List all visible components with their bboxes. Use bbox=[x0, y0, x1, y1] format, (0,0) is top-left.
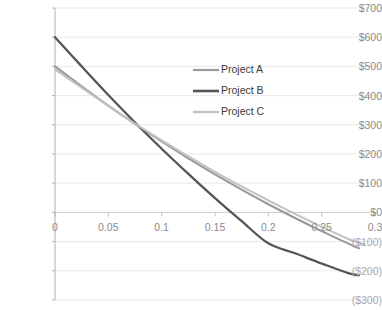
x-tick-label: 0.15 bbox=[205, 222, 225, 232]
chart-canvas bbox=[0, 0, 382, 310]
legend-label-project-c: Project C bbox=[221, 106, 264, 117]
legend-swatches bbox=[193, 70, 219, 112]
npv-profile-chart: $700$600$500$400$300$200$100$0($100)($20… bbox=[0, 0, 382, 310]
legend-label-project-b: Project B bbox=[221, 85, 264, 96]
y-tick-label: $500 bbox=[335, 61, 382, 71]
data-series bbox=[55, 37, 364, 275]
y-tick-label: $400 bbox=[335, 91, 382, 101]
y-tick-label: $600 bbox=[335, 32, 382, 42]
y-tick-label: $0 bbox=[335, 207, 382, 217]
y-tick-label: $300 bbox=[335, 120, 382, 130]
x-axis-ticks bbox=[55, 212, 375, 216]
y-tick-label: $200 bbox=[335, 149, 382, 159]
x-tick-label: 0 bbox=[52, 222, 58, 232]
x-tick-label: 0.25 bbox=[311, 222, 331, 232]
y-tick-label: ($200) bbox=[335, 266, 382, 276]
x-tick-label: 0.2 bbox=[261, 222, 276, 232]
legend-label-project-a: Project A bbox=[221, 64, 263, 75]
gridlines bbox=[55, 8, 378, 300]
y-tick-label: $100 bbox=[335, 178, 382, 188]
x-tick-label: 0.1 bbox=[154, 222, 169, 232]
y-tick-label: ($300) bbox=[335, 295, 382, 305]
y-tick-label: $700 bbox=[335, 3, 382, 13]
x-tick-label: 0.05 bbox=[98, 222, 118, 232]
series-line-project-b bbox=[55, 37, 359, 275]
y-tick-label: ($100) bbox=[335, 237, 382, 247]
x-tick-label: 0.3 bbox=[368, 222, 382, 232]
